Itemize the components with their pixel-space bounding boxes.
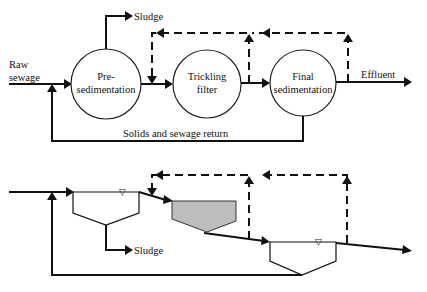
sludge-label-bottom: Sludge [134,245,164,256]
final-sedimentation-tank [270,242,336,275]
water-level-icon-2: ▽ [315,237,322,247]
effluent-arrow-icon [404,77,412,87]
svg-text:sedimentation: sedimentation [274,84,334,95]
svg-text:filter: filter [197,84,218,95]
effluent-label: Effluent [361,69,395,80]
raw-label: Raw [9,59,29,70]
water-level-icon-1: ▽ [119,187,126,197]
profile-flow-line-2 [204,233,264,241]
process-diagram: Raw sewage Pre- sedimentation Sludge Tri… [0,0,427,292]
presedimentation-unit: Pre- sedimentation [71,49,141,119]
profile-return-arrow-icon [47,192,57,200]
profile-recycle-left-1-icon [262,170,270,180]
return-label: Solids and sewage return [123,128,229,139]
svg-text:Final: Final [292,71,314,82]
trickling-filter-bed [172,201,236,232]
trickling-filter-unit: Trickling filter [173,50,241,118]
flow-arrow-1-icon [165,79,173,89]
profile-sludge-arrow-icon [125,245,133,255]
recycle-down-arrow-icon [147,76,157,84]
flow-arrow-2-icon [262,78,270,88]
profile-recycle-left-2-icon [155,170,163,180]
recycle-up-arrow-1-icon [343,34,353,42]
svg-text:Pre-: Pre- [97,71,115,82]
profile-flow-arrow-2-icon [261,236,270,245]
sludge-arrow-icon [125,11,133,21]
profile-recycle-up-1-icon [342,176,352,184]
svg-text:sedimentation: sedimentation [77,84,137,95]
profile-effluent-line [336,243,405,250]
profile-recycle-final [266,175,347,243]
svg-text:Trickling: Trickling [188,71,227,82]
profile-recycle-up-2-icon [244,176,254,184]
sewage-label: sewage [9,72,40,83]
sludge-line [106,16,127,49]
recycle-left-arrow-2-icon [156,28,164,38]
sludge-label-top: Sludge [134,11,164,22]
presedimentation-tank [73,192,139,225]
return-arrow-icon [47,84,57,92]
final-sedimentation-unit: Final sedimentation [270,50,336,116]
recycle-up-arrow-2-icon [244,34,254,42]
profile-effluent-arrow-icon [402,245,412,254]
profile-sludge-line [106,225,127,250]
recycle-left-arrow-1-icon [262,28,270,38]
